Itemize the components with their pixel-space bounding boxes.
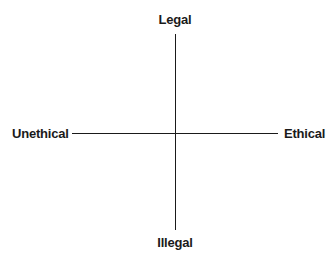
axis-label-legal: Legal xyxy=(159,13,192,26)
axis-label-ethical: Ethical xyxy=(284,127,325,140)
axis-label-illegal: Illegal xyxy=(157,236,192,249)
vertical-axis-line xyxy=(175,34,176,230)
axis-label-unethical: Unethical xyxy=(12,127,69,140)
horizontal-axis-line xyxy=(72,133,278,134)
